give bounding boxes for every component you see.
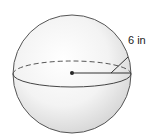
- radius-label: 6 in: [128, 34, 146, 46]
- sphere-diagram: 6 in: [0, 0, 158, 140]
